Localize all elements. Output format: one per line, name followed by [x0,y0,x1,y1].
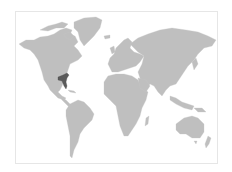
australia [176,116,204,138]
southeast-asia [170,96,194,110]
new-guinea [194,108,206,112]
tasmania [194,141,197,144]
madagascar [145,116,149,126]
world-map [0,0,232,172]
north-america [19,28,82,100]
iceland [104,35,110,39]
south-america [66,100,94,158]
new-zealand [205,136,211,148]
caribbean [68,90,76,93]
greenland [74,17,102,46]
